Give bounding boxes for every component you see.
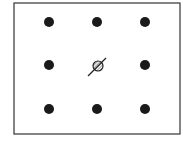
dot (140, 17, 150, 27)
dot (92, 17, 102, 27)
center-marker (88, 58, 106, 76)
dot (44, 104, 54, 114)
dot (140, 60, 150, 70)
dot (92, 104, 102, 114)
dot (44, 60, 54, 70)
hatched-circle-icon (93, 61, 103, 71)
dot (140, 104, 150, 114)
dot (44, 17, 54, 27)
dot-grid-diagram (0, 0, 183, 141)
